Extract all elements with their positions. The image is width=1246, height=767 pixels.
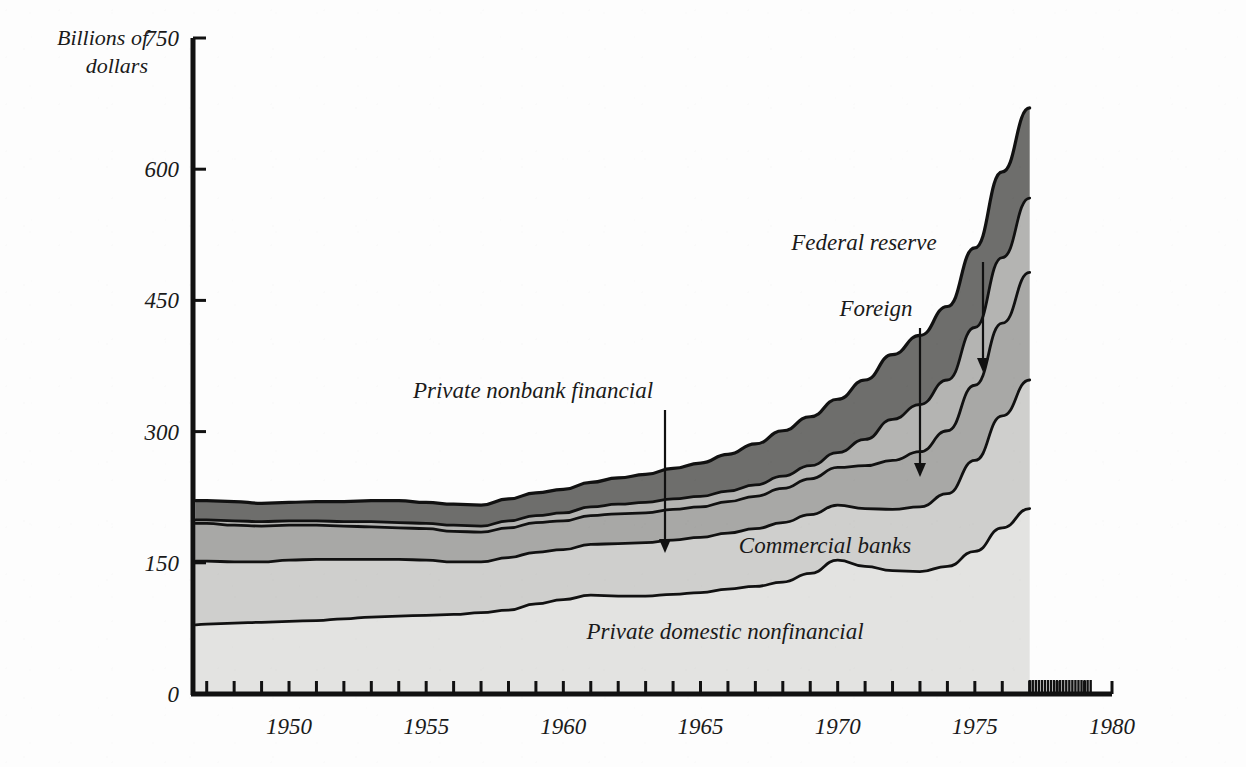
y-tick-label: 150 [145, 551, 180, 576]
y-tick-label: 450 [145, 288, 180, 313]
series-label-federal-reserve: Federal reserve [790, 230, 936, 255]
x-tick-label: 1960 [540, 714, 587, 739]
series-label-commercial-banks: Commercial banks [739, 533, 911, 558]
y-axis-title-line2: dollars [86, 53, 148, 78]
x-tick-label: 1965 [678, 714, 724, 739]
series-label-private-nonbank-financial: Private nonbank financial [412, 378, 653, 403]
x-tick-label: 1975 [952, 714, 998, 739]
y-tick-label: 750 [145, 26, 180, 51]
y-tick-label: 300 [144, 420, 180, 445]
series-label-private-domestic-nonfinancial: Private domestic nonfinancial [585, 619, 863, 644]
y-axis-title-line1: Billions of [57, 25, 151, 50]
series-label-foreign: Foreign [838, 296, 912, 321]
x-tick-label: 1970 [815, 714, 862, 739]
area-chart: Billions of dollars 0150300450600750 195… [0, 0, 1246, 767]
chart-figure: Billions of dollars 0150300450600750 195… [0, 0, 1246, 767]
x-tick-label: 1955 [403, 714, 449, 739]
x-tick-label: 1980 [1089, 714, 1136, 739]
x-tick-label: 1950 [266, 714, 313, 739]
y-tick-label: 600 [145, 157, 180, 182]
y-tick-label: 0 [168, 682, 180, 707]
